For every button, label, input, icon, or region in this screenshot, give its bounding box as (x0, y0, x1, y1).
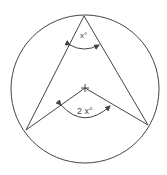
diagram-canvas: x° 2 x° (0, 0, 167, 175)
circle-theorem-diagram: x° 2 x° (0, 0, 167, 175)
radius-right (85, 88, 148, 125)
central-angle-label: 2 x° (77, 106, 93, 116)
inscribed-angle-label: x° (80, 31, 87, 40)
chord-apex-left (26, 16, 84, 130)
chord-apex-right (84, 16, 148, 125)
inscribed-angle-arc (70, 45, 99, 49)
